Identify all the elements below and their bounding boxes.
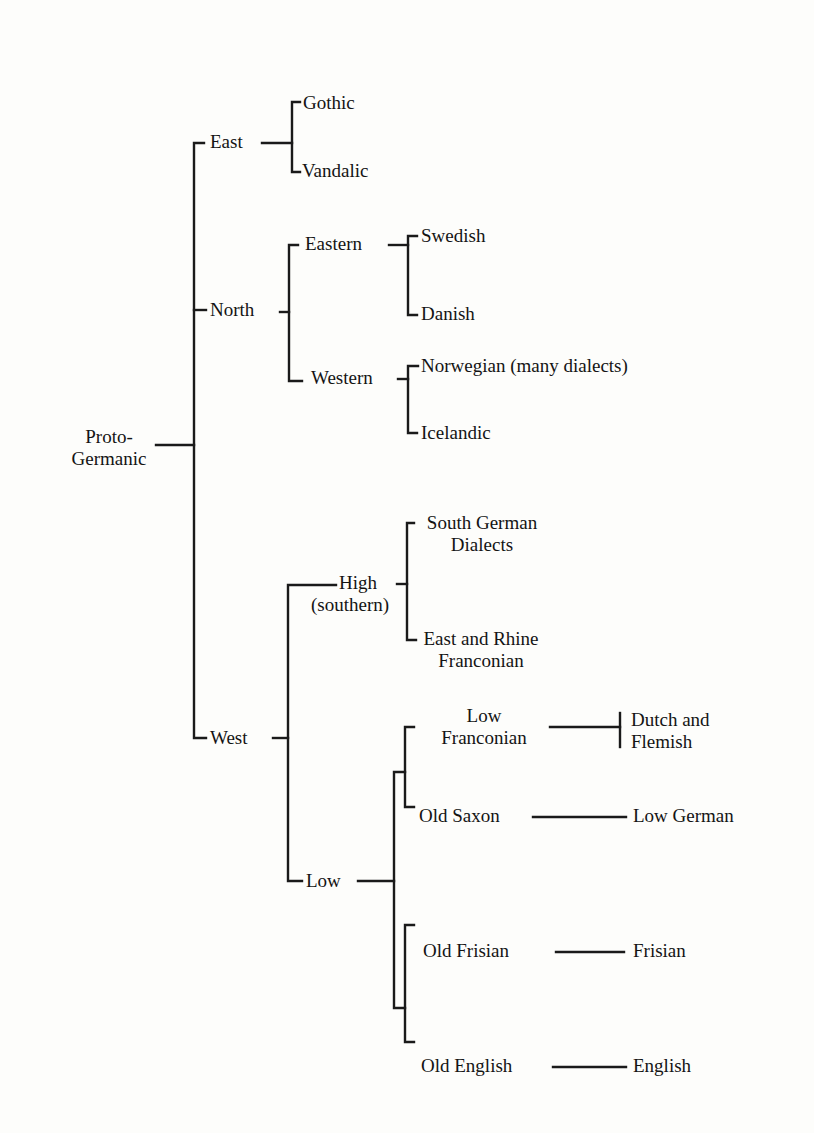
node-high: High (southern) [300,572,400,616]
high-line2: (southern) [300,594,400,616]
node-frisian: Frisian [633,940,686,962]
node-swedish: Swedish [421,225,485,247]
low-lower-bracket [405,925,414,1042]
node-dutch-flemish: Dutch and Flemish [631,709,710,753]
node-east: East [210,131,243,153]
low-franconian-line1: Low [425,705,543,727]
north-bracket [289,245,302,381]
high-bracket [407,523,416,640]
dutch-line1: Dutch and [631,709,710,731]
eastern-bracket [408,236,417,315]
node-north: North [210,299,254,321]
proto-germanic-line2: Germanic [54,448,164,470]
node-icelandic: Icelandic [421,422,491,444]
node-west: West [210,727,248,749]
dutch-line2: Flemish [631,731,710,753]
node-norwegian: Norwegian (many dialects) [421,355,628,377]
node-gothic: Gothic [303,92,355,114]
node-english: English [633,1055,691,1077]
east-rhine-line1: East and Rhine [414,628,548,650]
low-outer-bracket [394,772,405,1008]
node-south-german-dialects: South German Dialects [418,512,546,556]
node-old-frisian: Old Frisian [423,940,509,962]
node-low-german: Low German [633,805,734,827]
high-line1: High [300,572,400,594]
node-old-saxon: Old Saxon [419,805,500,827]
node-western: Western [311,367,373,389]
east-bracket [292,102,300,172]
western-bracket [408,366,418,433]
node-vandalic: Vandalic [302,160,368,182]
east-rhine-line2: Franconian [414,650,548,672]
west-bracket [288,585,336,881]
node-old-english: Old English [421,1055,512,1077]
low-franconian-line2: Franconian [425,727,543,749]
proto-germanic-line1: Proto- [54,426,164,448]
south-german-line1: South German [418,512,546,534]
south-german-line2: Dialects [418,534,546,556]
node-east-rhine-franconian: East and Rhine Franconian [414,628,548,672]
node-danish: Danish [421,303,475,325]
tree-connector-lines [0,0,814,1133]
low-upper-bracket [405,727,414,807]
main-bracket [194,143,206,738]
node-proto-germanic: Proto- Germanic [54,426,164,470]
node-eastern: Eastern [305,233,362,255]
node-low-franconian: Low Franconian [425,705,543,749]
node-low: Low [306,870,341,892]
